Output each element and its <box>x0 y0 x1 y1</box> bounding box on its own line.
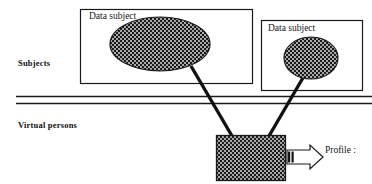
data-subject-left-label: Data subject <box>89 11 136 21</box>
connector-small-subject <box>269 76 304 136</box>
profile-label: Profile : <box>325 145 356 155</box>
connector-large-subject <box>191 66 232 136</box>
data-subject-right-label: Data subject <box>268 23 315 33</box>
layer-label-subjects: Subjects <box>18 58 50 68</box>
subject-entity-large-ellipse <box>110 17 210 71</box>
profile-block-arrow <box>287 145 323 169</box>
virtual-person-box <box>217 136 286 181</box>
subject-entity-small-ellipse <box>284 37 338 79</box>
diagram-graphics <box>0 0 372 184</box>
layer-label-virtual-persons: Virtual persons <box>18 120 77 130</box>
diagram-canvas: Subjects Virtual persons Data subject Da… <box>0 0 372 184</box>
